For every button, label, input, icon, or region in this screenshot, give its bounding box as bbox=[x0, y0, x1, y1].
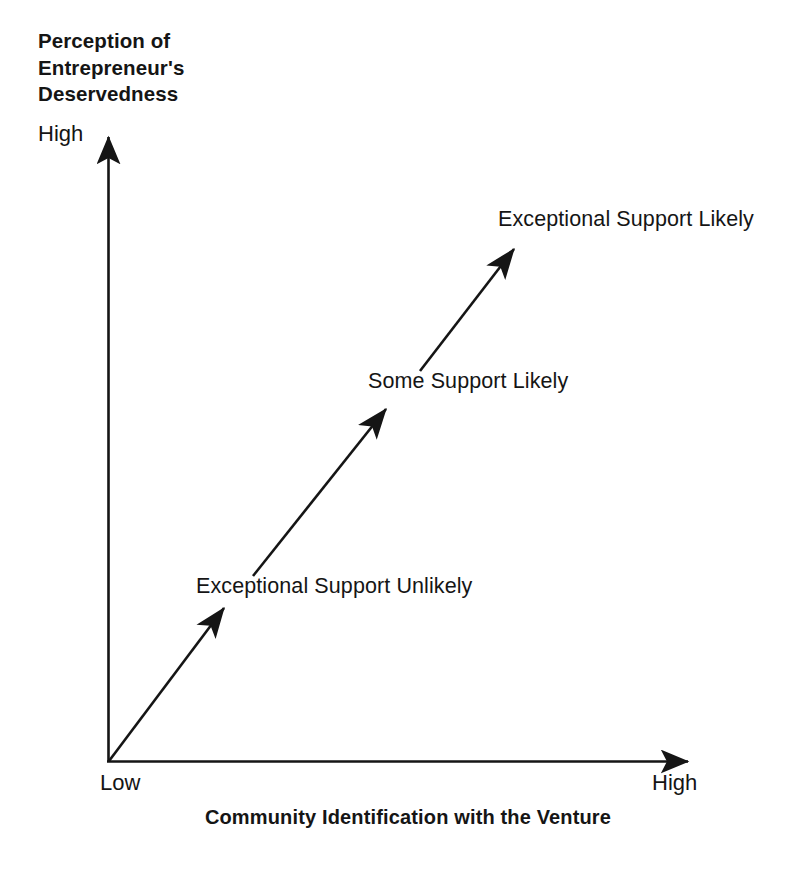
y-axis-title-line-1: Perception of bbox=[38, 29, 170, 52]
y-axis-high-label: High bbox=[38, 121, 83, 148]
trend-arrow-segment-1 bbox=[109, 608, 224, 761]
trend-arrow-segment-2 bbox=[253, 409, 386, 576]
annotation-some-support-likely: Some Support Likely bbox=[368, 368, 568, 394]
y-axis-title: Perception ofEntrepreneur'sDeservedness bbox=[38, 28, 184, 108]
y-axis-title-line-3: Deservedness bbox=[38, 82, 178, 105]
annotation-exceptional-support-unlikely: Exceptional Support Unlikely bbox=[196, 573, 472, 599]
y-axis-title-line-2: Entrepreneur's bbox=[38, 56, 184, 79]
trend-arrow-segment-3 bbox=[420, 249, 514, 371]
x-axis-title: Community Identification with the Ventur… bbox=[108, 805, 708, 829]
x-axis-low-label: Low bbox=[100, 770, 140, 797]
annotation-exceptional-support-likely: Exceptional Support Likely bbox=[498, 206, 754, 232]
figure-canvas: Perception ofEntrepreneur'sDeservedness … bbox=[0, 0, 796, 871]
diagram-graphic bbox=[0, 0, 796, 871]
x-axis-high-label: High bbox=[652, 770, 697, 797]
